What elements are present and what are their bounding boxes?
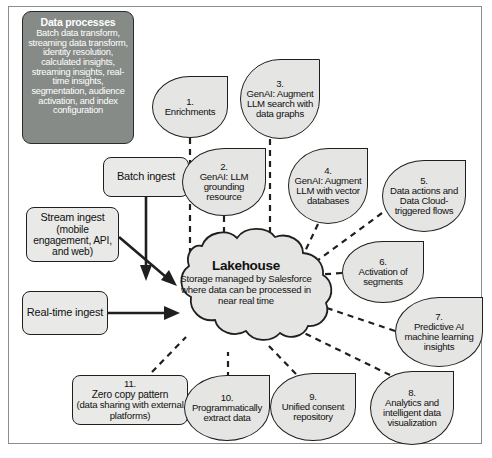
- node-3-augment-llm-search: 3. GenAI: Augment LLM search with data g…: [240, 59, 320, 139]
- node-2-llm-grounding: 2. GenAI: LLM grounding resource: [182, 148, 266, 216]
- arrowhead-batch: [140, 265, 152, 281]
- node-11-zero-copy-box: 11. Zero copy pattern (data sharing with…: [72, 375, 188, 425]
- realtime-ingest-box: Real-time ingest: [22, 291, 108, 335]
- stream-ingest-box: Stream ingest (mobile engagement, API, a…: [26, 207, 119, 262]
- node-5-label: Data actions and Data Cloud-triggered fl…: [383, 186, 465, 217]
- node-6-activation-segments: 6. Activation of segments: [342, 241, 424, 303]
- node-7-predictive-ai: 7. Predictive AI machine learning insigh…: [395, 297, 483, 367]
- node-8-analytics-visualization: 8. Analytics and intelligent data visual…: [370, 371, 454, 445]
- lakehouse-node: Lakehouse Storage managed by Salesforce …: [178, 258, 314, 306]
- diagram-canvas: Data processes Batch data transform, str…: [0, 0, 492, 458]
- node-2-label: GenAI: LLM grounding resource: [183, 172, 265, 203]
- batch-ingest-label: Batch ingest: [117, 171, 175, 183]
- connector-node-11: [152, 337, 186, 372]
- node-1-label: Enrichments: [161, 107, 220, 117]
- node-11-number: 11.: [73, 379, 187, 389]
- data-processes-title: Data processes: [28, 17, 128, 28]
- arrowhead-stream: [161, 270, 177, 286]
- node-6-label: Activation of segments: [343, 267, 423, 288]
- realtime-ingest-label: Real-time ingest: [27, 307, 103, 319]
- stream-ingest-sublabel: (mobile engagement, API, and web): [27, 224, 118, 257]
- node-7-label: Predictive AI machine learning insights: [396, 322, 482, 353]
- node-10-programmatic-extract: 10. Programmatically extract data: [184, 375, 270, 441]
- node-8-label: Analytics and intelligent data visualiza…: [371, 398, 453, 429]
- node-9-label: Unified consent repository: [271, 402, 355, 423]
- batch-ingest-box: Batch ingest: [103, 157, 189, 197]
- stream-ingest-label: Stream ingest: [27, 212, 118, 224]
- lakehouse-title: Lakehouse: [178, 258, 314, 273]
- node-1-enrichments: 1. Enrichments: [152, 76, 228, 138]
- node-10-label: Programmatically extract data: [185, 403, 269, 424]
- node-3-label: GenAI: Augment LLM search with data grap…: [241, 89, 319, 120]
- arrowhead-realtime: [164, 306, 180, 320]
- node-11-sublabel: (data sharing with external platforms): [73, 400, 187, 421]
- node-9-unified-consent: 9. Unified consent repository: [270, 373, 356, 441]
- node-4-label: GenAI: Augment LLM with vector databases: [289, 176, 367, 207]
- lakehouse-body: Storage managed by Salesforce where data…: [178, 274, 314, 306]
- node-4-augment-llm-vector: 4. GenAI: Augment LLM with vector databa…: [288, 148, 368, 224]
- node-5-data-actions: 5. Data actions and Data Cloud-triggered…: [382, 160, 466, 232]
- connector-node-9: [268, 345, 296, 374]
- connector-node-8: [300, 331, 390, 375]
- data-processes-body: Batch data transform, streaming data tra…: [28, 29, 128, 116]
- data-processes-panel: Data processes Batch data transform, str…: [22, 11, 134, 144]
